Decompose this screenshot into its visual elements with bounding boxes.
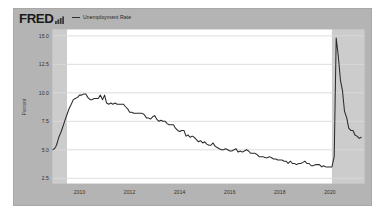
x-tick-label-0: 2010 [74,189,86,195]
plot-canvas [52,29,365,184]
recession-band-2 [332,29,365,184]
x-tick-label-5: 2020 [324,189,336,195]
fred-chart-widget: FRED Unemployment Rate Percent 15.012.51… [13,8,372,206]
series-line-unemployment-rate [53,38,362,167]
recession-band-1 [52,29,67,184]
x-tick-label-3: 2016 [224,189,236,195]
plot-area[interactable] [52,29,365,184]
x-tick-label-2: 2014 [174,189,186,195]
x-tick-label-4: 2018 [274,189,286,195]
x-tick-label-1: 2012 [124,189,136,195]
plot-frame [52,29,365,184]
gridlines-layer [52,36,365,178]
recession-bands-layer [52,29,365,184]
